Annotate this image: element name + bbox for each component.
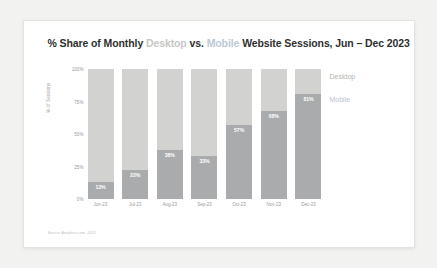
bar-segment-desktop[interactable] [261,69,287,111]
chart-card: % Share of Monthly Desktop vs. Mobile We… [23,20,415,248]
bar-value-label: 57% [226,127,252,133]
bar-column[interactable]: 33% [191,69,217,199]
y-axis-tick: 25% [74,164,83,169]
title-suffix: Website Sessions, Jun – Dec 2023 [242,37,410,49]
x-axis-tick: Dec-23 [295,202,321,207]
y-axis-tick: 50% [74,132,83,137]
x-axis-ticks: Jun-23Jul-23Aug-23Sep-23Oct-23Nov-23Dec-… [88,202,322,207]
bar-segment-desktop[interactable] [122,69,148,170]
y-axis-tick: 100% [72,67,84,72]
x-axis-tick: Aug-23 [157,202,183,207]
title-word-mobile: Mobile [207,37,240,49]
title-word-desktop: Desktop [146,37,187,49]
bar-segment-mobile[interactable]: 38% [157,150,183,199]
bar-segment-mobile[interactable]: 81% [295,94,321,199]
source-note: Source: Analytics.com, 2023 [48,231,96,235]
bar-group: 13%22%38%33%57%68%81% [88,69,322,199]
bar-segment-desktop[interactable] [295,69,321,94]
bar-value-label: 68% [261,113,287,119]
plot-area: % of Sessions 100%75%50%25%0% 13%22%38%3… [48,69,392,217]
bar-value-label: 13% [88,184,114,190]
page-background: % Share of Monthly Desktop vs. Mobile We… [0,0,437,268]
y-axis-label: % of Sessions [46,53,51,113]
bar-value-label: 38% [157,152,183,158]
title-prefix: % Share of Monthly [48,37,144,49]
bar-value-label: 22% [122,172,148,178]
bar-value-label: 81% [295,96,321,102]
bar-segment-mobile[interactable]: 33% [191,156,217,199]
x-axis-tick: Jun-23 [88,202,114,207]
y-axis-tick: 75% [74,99,83,104]
bar-segment-mobile[interactable]: 22% [122,170,148,199]
bar-segment-desktop[interactable] [226,69,252,125]
bar-segment-desktop[interactable] [157,69,183,150]
bar-segment-desktop[interactable] [88,69,114,182]
legend-item-desktop: Desktop [330,73,392,80]
bar-segment-desktop[interactable] [191,69,217,156]
bar-column[interactable]: 57% [226,69,252,199]
x-axis-tick: Nov-23 [261,202,287,207]
bar-column[interactable]: 68% [261,69,287,199]
chart-legend: Desktop Mobile [330,73,392,119]
chart-title: % Share of Monthly Desktop vs. Mobile We… [48,37,410,49]
bar-column[interactable]: 38% [157,69,183,199]
x-axis-tick: Oct-23 [226,202,252,207]
bar-column[interactable]: 81% [295,69,321,199]
bar-column[interactable]: 13% [88,69,114,199]
x-axis-tick: Sep-23 [191,202,217,207]
y-axis-tick: 0% [77,197,84,202]
bar-segment-mobile[interactable]: 57% [226,125,252,199]
title-mid: vs. [190,37,204,49]
bar-value-label: 33% [191,158,217,164]
bar-segment-mobile[interactable]: 68% [261,111,287,199]
legend-item-mobile: Mobile [330,96,392,103]
x-axis-tick: Jul-23 [122,202,148,207]
y-axis-ticks: 100%75%50%25%0% [58,69,84,199]
bar-segment-mobile[interactable]: 13% [88,182,114,199]
bar-column[interactable]: 22% [122,69,148,199]
